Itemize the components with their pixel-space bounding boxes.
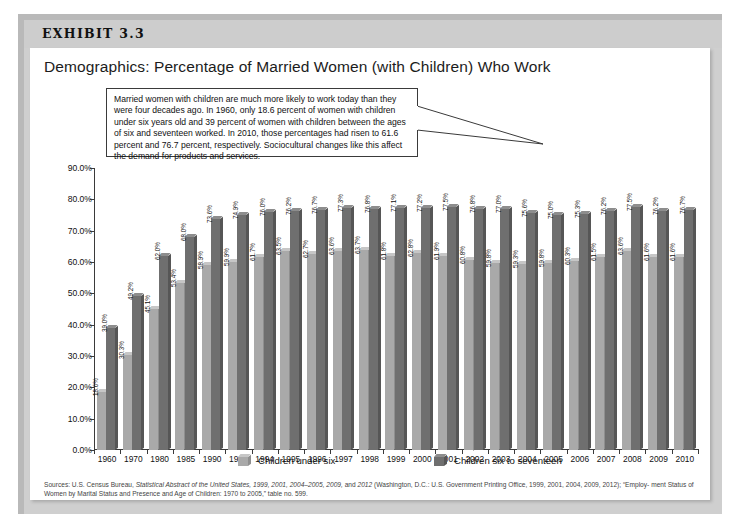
bar-value-label: 61.5% — [590, 243, 597, 261]
bar-group: 60.3%75.3% — [569, 168, 595, 450]
bar-children-six-to-seventeen: 73.6% — [211, 219, 220, 450]
legend-item-children-under-six: Children under six — [238, 454, 335, 466]
bar-children-under-six: 63.5% — [280, 251, 289, 450]
bar-value-label: 59.9% — [223, 248, 230, 266]
sources-note: Sources: U.S. Census Bureau, Statistical… — [44, 480, 698, 499]
bar-value-label: 61.6% — [669, 243, 676, 261]
bar-children-six-to-seventeen: 76.2% — [605, 211, 614, 450]
bar-children-under-six: 60.3% — [569, 261, 578, 450]
bar-value-label: 45.1% — [144, 295, 151, 313]
bar-value-label: 61.7% — [249, 243, 256, 261]
bar-children-six-to-seventeen: 76.0% — [264, 212, 273, 450]
bar-children-six-to-seventeen: 76.8% — [369, 209, 378, 450]
chart-legend: Children under six Children six to seven… — [30, 452, 710, 476]
bar-value-label: 76.7% — [679, 196, 686, 214]
exhibit-label: EXHIBIT 3.3 — [42, 26, 145, 41]
y-axis-tick-label: 40.0% — [46, 320, 92, 330]
legend-item-children-six-to-seventeen: Children six to seventeen — [434, 454, 562, 466]
bar-value-label: 77.5% — [626, 193, 633, 211]
bar-value-label: 75.0% — [547, 201, 554, 219]
bar-value-label: 76.8% — [364, 196, 371, 214]
y-axis-tick-label: 90.0% — [46, 163, 92, 173]
y-axis-tick-label: 50.0% — [46, 288, 92, 298]
callout-text: Married women with children are much mor… — [114, 94, 410, 162]
bar-value-label: 77.5% — [442, 193, 449, 211]
bar-group: 63.5%76.2% — [280, 168, 306, 450]
bar-children-six-to-seventeen: 77.2% — [421, 208, 430, 450]
bar-value-label: 62.7% — [302, 240, 309, 258]
bar-children-under-six: 63.7% — [359, 250, 368, 450]
bar-group: 61.6%76.7% — [674, 168, 700, 450]
bar-series-container: 18.6%39.0%30.3%49.2%45.1%62.0%53.4%68.0%… — [94, 168, 698, 450]
bar-value-label: 60.8% — [459, 246, 466, 264]
bar-value-label: 63.7% — [354, 237, 361, 255]
bar-value-label: 73.6% — [206, 206, 213, 224]
bar-children-under-six: 62.8% — [412, 253, 421, 450]
legend-swatch-icon — [238, 454, 251, 466]
bar-value-label: 75.6% — [521, 199, 528, 217]
y-axis-tick-label: 30.0% — [46, 351, 92, 361]
callout-pointer-icon — [417, 100, 547, 152]
bar-children-six-to-seventeen: 75.6% — [526, 213, 535, 450]
bar-group: 61.9%77.5% — [438, 168, 464, 450]
bar-children-six-to-seventeen: 75.3% — [579, 214, 588, 450]
y-axis-tick-label: 80.0% — [46, 194, 92, 204]
bar-children-under-six: 59.8% — [490, 263, 499, 450]
bar-group: 61.7%76.0% — [254, 168, 280, 450]
bar-children-under-six: 18.6% — [97, 392, 106, 450]
bar-value-label: 76.7% — [311, 196, 318, 214]
bar-group: 61.5%76.2% — [595, 168, 621, 450]
bar-value-label: 68.0% — [180, 223, 187, 241]
bar-children-under-six: 59.9% — [228, 262, 237, 450]
sources-line-1: Sources: U.S. Census Bureau, Statistical… — [44, 481, 649, 488]
bar-value-label: 60.3% — [564, 247, 571, 265]
bar-children-under-six: 61.6% — [674, 257, 683, 450]
bar-children-six-to-seventeen: 76.7% — [316, 210, 325, 450]
bar-children-six-to-seventeen: 76.7% — [684, 210, 693, 450]
bar-value-label: 30.3% — [118, 341, 125, 359]
y-axis-tick-label: 70.0% — [46, 226, 92, 236]
bar-children-under-six: 61.9% — [438, 256, 447, 450]
bar-group: 60.8%76.8% — [464, 168, 490, 450]
bar-children-under-six: 30.3% — [123, 355, 132, 450]
bar-children-under-six: 62.7% — [307, 254, 316, 450]
bar-value-label: 63.6% — [617, 237, 624, 255]
bar-value-label: 59.8% — [538, 249, 545, 267]
bar-value-label: 77.1% — [390, 195, 397, 213]
page-title: Demographics: Percentage of Married Wome… — [44, 58, 551, 76]
bar-children-under-six: 61.7% — [254, 257, 263, 450]
bar-value-label: 76.2% — [600, 197, 607, 215]
bar-value-label: 63.6% — [328, 237, 335, 255]
legend-label: Children six to seventeen — [454, 455, 562, 466]
bar-value-label: 74.9% — [232, 201, 239, 219]
bar-value-label: 76.2% — [652, 197, 659, 215]
bar-children-six-to-seventeen: 77.3% — [342, 208, 351, 450]
legend-label: Children under six — [258, 455, 335, 466]
bar-children-six-to-seventeen: 75.0% — [552, 215, 561, 450]
bar-value-label: 62.0% — [154, 242, 161, 260]
bar-value-label: 77.3% — [337, 194, 344, 212]
bar-group: 18.6%39.0% — [97, 168, 123, 450]
bar-value-label: 53.4% — [170, 269, 177, 287]
bar-children-six-to-seventeen: 76.2% — [290, 211, 299, 450]
bar-group: 63.6%77.3% — [333, 168, 359, 450]
exhibit-card: Demographics: Percentage of Married Wome… — [30, 48, 710, 500]
bar-value-label: 75.3% — [574, 200, 581, 218]
y-axis-tick-label: 10.0% — [46, 414, 92, 424]
bar-children-six-to-seventeen: 68.0% — [185, 237, 194, 450]
bar-children-under-six: 63.6% — [333, 251, 342, 450]
bar-group: 59.3%75.6% — [517, 168, 543, 450]
bar-group: 61.6%76.2% — [648, 168, 674, 450]
bar-children-six-to-seventeen: 77.5% — [447, 207, 456, 450]
bar-value-label: 59.8% — [485, 249, 492, 267]
bar-value-label: 76.8% — [469, 196, 476, 214]
bar-value-label: 76.2% — [285, 197, 292, 215]
bar-children-under-six: 61.6% — [648, 257, 657, 450]
bar-children-under-six: 61.8% — [385, 256, 394, 450]
bar-children-six-to-seventeen: 76.8% — [474, 209, 483, 450]
bar-children-under-six: 59.3% — [517, 264, 526, 450]
bar-value-label: 63.5% — [275, 237, 282, 255]
y-axis-tick-label: 60.0% — [46, 257, 92, 267]
bar-value-label: 77.2% — [416, 194, 423, 212]
bar-value-label: 61.6% — [643, 243, 650, 261]
